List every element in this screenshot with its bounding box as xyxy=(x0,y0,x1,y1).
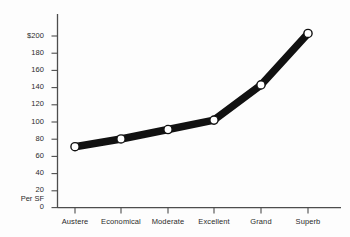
x-axis-ticks xyxy=(75,208,308,214)
data-point-markers xyxy=(71,29,312,150)
y-tick-label-120: 120 xyxy=(10,100,44,108)
y-axis-ticks xyxy=(52,36,58,208)
data-point-grand xyxy=(257,81,265,89)
data-point-excellent xyxy=(210,116,218,124)
chart-plot-area xyxy=(0,0,350,237)
data-point-austere xyxy=(71,143,79,151)
x-tick-label-superb: Superb xyxy=(277,218,339,226)
y-tick-label-60: 60 xyxy=(10,152,44,160)
data-point-moderate xyxy=(164,125,172,133)
y-tick-label-160: 160 xyxy=(10,66,44,74)
y-tick-label-140: 140 xyxy=(10,83,44,91)
data-series-line xyxy=(75,33,308,146)
data-point-superb xyxy=(304,29,312,37)
y-tick-label-40: 40 xyxy=(10,169,44,177)
y-tick-label-80: 80 xyxy=(10,135,44,143)
y-tick-label-100: 100 xyxy=(10,118,44,126)
data-point-economical xyxy=(117,135,125,143)
y-tick-label-200: $200 xyxy=(10,32,44,40)
y-tick-label-0: 0 xyxy=(10,203,44,211)
line-chart: $200 180 160 140 120 100 80 60 40 20 0 P… xyxy=(0,0,350,237)
y-tick-label-180: 180 xyxy=(10,49,44,57)
y-axis-unit-label: Per SF xyxy=(10,195,44,203)
